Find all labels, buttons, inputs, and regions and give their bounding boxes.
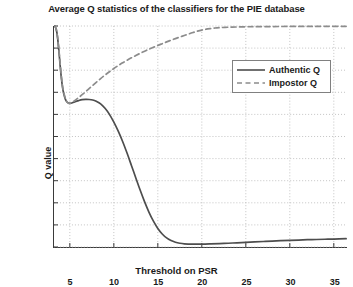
x-tick-label: 30 [286, 277, 296, 287]
legend-line-dashed-icon [236, 78, 266, 88]
x-tick-label: 20 [197, 277, 207, 287]
legend-label-impostor: Impostor Q [269, 78, 317, 88]
x-axis-label: Threshold on PSR [0, 265, 353, 276]
legend-label-authentic: Authentic Q [269, 65, 320, 75]
x-tick-label: 10 [109, 277, 119, 287]
x-tick-label: 15 [153, 277, 163, 287]
series-line-0 [55, 26, 346, 244]
y-axis-label: Q value [43, 147, 53, 180]
x-tick-label: 5 [67, 277, 72, 287]
x-tick-label: 35 [330, 277, 340, 287]
x-tick-label: 25 [241, 277, 251, 287]
legend-line-solid-icon [236, 65, 266, 75]
chart-title: Average Q statistics of the classifiers … [0, 3, 353, 14]
legend-item-impostor: Impostor Q [236, 76, 327, 89]
chart-legend: Authentic Q Impostor Q [232, 60, 331, 93]
legend-item-authentic: Authentic Q [236, 63, 327, 76]
